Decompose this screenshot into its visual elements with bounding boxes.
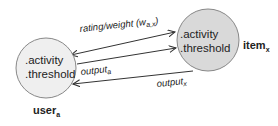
diagram-canvas: .activity .threshold usera .activity .th… bbox=[0, 0, 278, 126]
user-label: usera bbox=[33, 104, 60, 118]
item-label: itemx bbox=[243, 39, 270, 53]
rating-weight-arrow bbox=[71, 32, 175, 55]
user-activity-attr: .activity bbox=[25, 54, 64, 66]
item-activity-attr: .activity bbox=[180, 28, 219, 40]
output-a-label: outputa bbox=[80, 63, 112, 78]
rating-weight-label: rating/weight (wa,x) bbox=[79, 15, 159, 35]
output-x-label: outputx bbox=[156, 75, 188, 90]
user-threshold-attr: .threshold bbox=[25, 68, 76, 80]
item-threshold-attr: .threshold bbox=[180, 42, 231, 54]
item-node bbox=[177, 9, 239, 71]
